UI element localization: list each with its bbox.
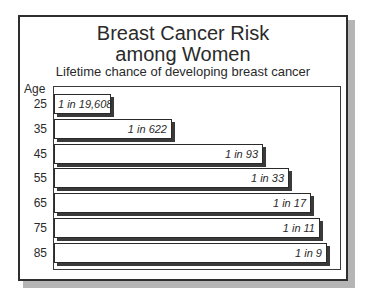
bar-value-label: 1 in 9 [295, 247, 322, 259]
age-label: 35 [23, 122, 47, 136]
bar-value-label: 1 in 17 [273, 197, 306, 209]
risk-bar [54, 218, 320, 238]
age-label: 25 [23, 97, 47, 111]
chart-title-line2: among Women [18, 44, 348, 65]
age-label: 65 [23, 196, 47, 210]
bar-value-label: 1 in 19,608 [58, 98, 112, 110]
risk-bar [54, 243, 327, 263]
bar-value-label: 1 in 93 [225, 148, 258, 160]
bar-value-label: 1 in 33 [251, 172, 284, 184]
age-label: 75 [23, 221, 47, 235]
bar-value-label: 1 in 11 [283, 222, 315, 234]
bar-value-label: 1 in 622 [128, 123, 167, 135]
age-label: 45 [23, 147, 47, 161]
age-label: 55 [23, 171, 47, 185]
y-axis-label: Age [24, 82, 45, 96]
chart-subtitle: Lifetime chance of developing breast can… [18, 65, 348, 79]
age-label: 85 [23, 246, 47, 260]
chart-title-line1: Breast Cancer Risk [18, 23, 348, 44]
